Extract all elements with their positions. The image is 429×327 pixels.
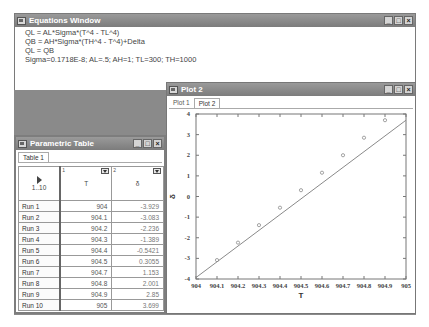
plot-window: Plot 2 _ □ × Plot 1 Plot 2 904904.1904.2…: [166, 82, 416, 314]
y-tick-label: -3: [185, 254, 191, 261]
run-label[interactable]: Run 7: [19, 267, 61, 278]
cell-delta[interactable]: -1.389: [112, 234, 164, 245]
run-label[interactable]: Run 9: [19, 289, 61, 300]
run-label[interactable]: Run 5: [19, 245, 61, 256]
column-header-delta[interactable]: 2 δ: [112, 167, 164, 201]
line-chart[interactable]: 904904.1904.2904.3904.4904.5904.6904.790…: [167, 109, 415, 313]
run-range: 1..10: [32, 184, 46, 191]
run-label[interactable]: Run 8: [19, 278, 61, 289]
cell-delta[interactable]: 2.001: [112, 278, 164, 289]
data-marker: [278, 206, 281, 209]
window-title: Equations Window: [29, 16, 384, 25]
run-label[interactable]: Run 3: [19, 223, 61, 234]
cell-delta[interactable]: -0.5421: [112, 245, 164, 256]
y-tick-label: -4: [185, 275, 191, 282]
run-label[interactable]: Run 10: [19, 300, 61, 311]
minimize-button[interactable]: _: [384, 16, 393, 25]
window-title: Plot 2: [181, 85, 384, 94]
cell-t[interactable]: 904.5: [60, 256, 112, 267]
run-label[interactable]: Run 6: [19, 256, 61, 267]
data-marker: [320, 171, 323, 174]
table-row[interactable]: Run 3904.2-2.236: [19, 223, 164, 234]
tab-plot-2[interactable]: Plot 2: [194, 98, 221, 108]
equations-titlebar[interactable]: Equations Window _ □ ×: [15, 14, 415, 27]
equations-window: Equations Window _ □ × QL = AL*Sigma*(T^…: [14, 13, 416, 90]
equation-line: QL = AL*Sigma*(T^4 - TL^4): [25, 28, 405, 37]
x-tick-label: 904.7: [336, 282, 351, 289]
y-tick-label: -2: [185, 234, 190, 241]
cell-delta[interactable]: 2.85: [112, 289, 164, 300]
table-row[interactable]: Run 4904.3-1.389: [19, 234, 164, 245]
play-icon: [37, 176, 42, 184]
data-marker: [236, 241, 239, 244]
data-marker: [257, 224, 260, 227]
app-icon: [169, 86, 178, 94]
tab-plot-1[interactable]: Plot 1: [169, 98, 194, 108]
table-row[interactable]: Run 8904.82.001: [19, 278, 164, 289]
data-marker: [341, 154, 344, 157]
cell-delta[interactable]: -2.236: [112, 223, 164, 234]
data-marker: [383, 119, 386, 122]
app-icon: [18, 140, 27, 148]
y-tick-label: 1: [187, 172, 190, 179]
x-tick-label: 904.4: [273, 282, 288, 289]
cell-t[interactable]: 904.3: [60, 234, 112, 245]
x-axis-label: T: [299, 291, 304, 300]
y-tick-label: 3: [187, 131, 191, 138]
dropdown-icon[interactable]: [153, 168, 161, 174]
close-button[interactable]: ×: [404, 85, 413, 94]
table-tabs: Table 1: [18, 152, 162, 163]
parametric-titlebar[interactable]: Parametric Table _ □ ×: [16, 137, 164, 150]
column-header-t[interactable]: 1 T: [60, 167, 112, 201]
cell-delta[interactable]: 3.699: [112, 300, 164, 311]
table-row[interactable]: Run 9904.92.85: [19, 289, 164, 300]
x-tick-label: 904.9: [378, 282, 393, 289]
table-row[interactable]: Run 7904.71.153: [19, 267, 164, 278]
cell-delta[interactable]: 1.153: [112, 267, 164, 278]
maximize-button[interactable]: □: [394, 16, 403, 25]
cell-t[interactable]: 904.2: [60, 223, 112, 234]
table-row[interactable]: Run 2904.1-3.083: [19, 212, 164, 223]
x-tick-label: 904.2: [231, 282, 246, 289]
cell-t[interactable]: 904.4: [60, 245, 112, 256]
x-tick-label: 904: [191, 282, 202, 289]
equation-line: QL = QB: [25, 46, 405, 55]
run-label[interactable]: Run 2: [19, 212, 61, 223]
minimize-button[interactable]: _: [133, 139, 142, 148]
table-row[interactable]: Run 109053.699: [19, 300, 164, 311]
close-button[interactable]: ×: [404, 16, 413, 25]
cell-delta[interactable]: 0.3055: [112, 256, 164, 267]
cell-t[interactable]: 904.7: [60, 267, 112, 278]
cell-t[interactable]: 905: [60, 300, 112, 311]
cell-delta[interactable]: -3.929: [112, 201, 164, 212]
close-button[interactable]: ×: [153, 139, 162, 148]
dropdown-icon[interactable]: [101, 168, 109, 174]
equations-editor[interactable]: QL = AL*Sigma*(T^4 - TL^4) QB = AH*Sigma…: [15, 27, 415, 65]
column-index: 2: [113, 167, 116, 173]
plot-tabs: Plot 1 Plot 2: [169, 98, 413, 109]
app-icon: [17, 17, 26, 25]
table-row[interactable]: Run 1904-3.929: [19, 201, 164, 212]
tab-table-1[interactable]: Table 1: [18, 152, 49, 162]
maximize-button[interactable]: □: [394, 85, 403, 94]
run-label[interactable]: Run 4: [19, 234, 61, 245]
cell-t[interactable]: 904: [60, 201, 112, 212]
window-title: Parametric Table: [30, 139, 133, 148]
run-range-header[interactable]: 1..10: [19, 167, 61, 201]
cell-t[interactable]: 904.8: [60, 278, 112, 289]
run-label[interactable]: Run 1: [19, 201, 61, 212]
equation-line: Sigma=0.1718E-8; AL=.5; AH=1; TL=300; TH…: [25, 55, 405, 64]
column-name: T: [84, 180, 88, 187]
table-row[interactable]: Run 5904.4-0.5421: [19, 245, 164, 256]
y-axis-label: δ: [168, 194, 177, 199]
column-index: 1: [62, 167, 65, 173]
minimize-button[interactable]: _: [384, 85, 393, 94]
cell-t[interactable]: 904.9: [60, 289, 112, 300]
data-marker: [362, 136, 365, 139]
plot-titlebar[interactable]: Plot 2 _ □ ×: [167, 83, 415, 96]
table-row[interactable]: Run 6904.50.3055: [19, 256, 164, 267]
maximize-button[interactable]: □: [143, 139, 152, 148]
parametric-table: 1..10 1 T 2 δ Run 1904-3.929Run 2904.1-3…: [18, 166, 164, 311]
cell-t[interactable]: 904.1: [60, 212, 112, 223]
cell-delta[interactable]: -3.083: [112, 212, 164, 223]
